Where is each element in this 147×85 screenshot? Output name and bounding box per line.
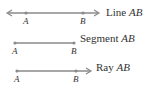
point-b-dot xyxy=(72,41,75,44)
label-name: AB xyxy=(129,6,142,18)
label-word: Line xyxy=(106,6,126,18)
label-word: Segment xyxy=(80,32,119,44)
label-name: AB xyxy=(116,61,129,73)
segment-ab-label: Segment AB xyxy=(80,33,135,44)
point-b-label: B xyxy=(80,17,86,26)
point-a-label: A xyxy=(12,47,18,56)
ray-ab-figure xyxy=(15,68,91,74)
point-a-dot xyxy=(15,69,18,72)
point-b-label: B xyxy=(73,75,79,84)
point-b-dot xyxy=(81,11,84,14)
point-a-dot xyxy=(24,11,27,14)
label-word: Ray xyxy=(96,61,114,73)
point-b-dot xyxy=(74,69,77,72)
point-a-label: A xyxy=(14,75,20,84)
line-ab-label: Line AB xyxy=(106,7,142,18)
point-b-label: B xyxy=(71,47,77,56)
segment-ab-figure xyxy=(13,41,75,44)
point-a-dot xyxy=(13,41,16,44)
label-name: AB xyxy=(121,32,134,44)
ray-ab-label: Ray AB xyxy=(96,62,130,73)
point-a-label: A xyxy=(23,17,29,26)
